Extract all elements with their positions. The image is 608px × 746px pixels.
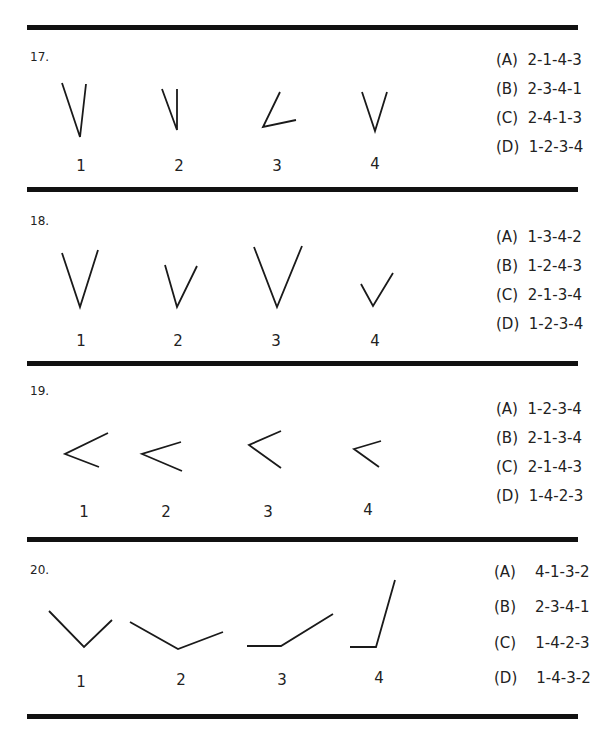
angle-figure: [362, 92, 387, 131]
question-number: 19.: [30, 384, 49, 398]
answer-option: (C) 2-1-3-4: [496, 286, 582, 304]
figure-label: 2: [156, 503, 176, 521]
figure-label: 1: [74, 503, 94, 521]
angle-figure: [130, 622, 223, 649]
answer-option: (D) 1-2-3-4: [496, 315, 583, 333]
figure-label: 3: [258, 503, 278, 521]
angle-figure: [263, 92, 296, 127]
answer-option: (B) 2-3-4-1: [494, 598, 589, 616]
answer-option: (D) 1-4-3-2: [494, 669, 591, 687]
angle-figure: [254, 246, 302, 307]
answer-option: (A) 1-3-4-2: [496, 228, 582, 246]
question-number: 18.: [30, 214, 49, 228]
figure-label: 3: [267, 157, 287, 175]
angle-figure: [62, 83, 86, 137]
angle-figure: [247, 614, 333, 646]
figure-label: 3: [272, 671, 292, 689]
answer-option: (B) 1-2-4-3: [496, 257, 582, 275]
angle-figure: [249, 431, 281, 468]
figure-label: 1: [71, 157, 91, 175]
angle-figure: [350, 580, 395, 647]
angle-figure: [62, 250, 98, 307]
answer-option: (A) 1-2-3-4: [496, 400, 582, 418]
answer-option: (D) 1-4-2-3: [496, 487, 583, 505]
answer-option: (A) 2-1-4-3: [496, 51, 582, 69]
angle-figure: [65, 433, 108, 467]
answer-option: (C) 1-4-2-3: [494, 634, 590, 652]
figure-label: 4: [358, 501, 378, 519]
figure-label: 1: [71, 673, 91, 691]
figure-label: 2: [171, 671, 191, 689]
figure-label: 3: [266, 332, 286, 350]
figure-label: 1: [71, 332, 91, 350]
answer-option: (D) 1-2-3-4: [496, 138, 583, 156]
figure-label: 4: [365, 155, 385, 173]
angle-figure: [165, 265, 197, 307]
angle-figure: [162, 89, 177, 130]
angle-figure: [354, 441, 381, 467]
answer-option: (B) 2-3-4-1: [496, 80, 582, 98]
figure-label: 2: [168, 332, 188, 350]
figure-label: 4: [365, 332, 385, 350]
answer-option: (B) 2-1-3-4: [496, 429, 582, 447]
angle-figure: [361, 273, 393, 306]
figure-label: 2: [169, 157, 189, 175]
question-number: 20.: [30, 563, 49, 577]
question-number: 17.: [30, 50, 49, 64]
angle-figure: [49, 611, 112, 647]
angle-figure: [142, 442, 182, 471]
answer-option: (A) 4-1-3-2: [494, 563, 589, 581]
answer-option: (C) 2-1-4-3: [496, 458, 582, 476]
answer-option: (C) 2-4-1-3: [496, 109, 582, 127]
figure-label: 4: [369, 669, 389, 687]
